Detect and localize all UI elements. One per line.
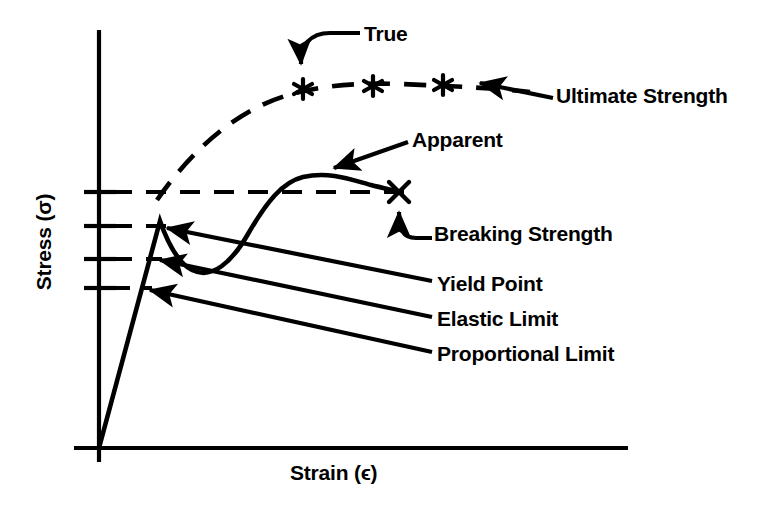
- diagram-canvas: [0, 0, 778, 525]
- elastic-limit-label: Elastic Limit: [437, 307, 558, 331]
- ultimate-strength-label: Ultimate Strength: [556, 84, 728, 108]
- proportional-limit-label: Proportional Limit: [437, 342, 614, 366]
- elastic-limit-leader-arrow: [160, 260, 432, 317]
- stress-strain-figure: True Ultimate Strength Apparent Breaking…: [0, 0, 778, 525]
- apparent-label: Apparent: [412, 128, 503, 152]
- proportional-limit-leader-arrow: [150, 290, 432, 352]
- yield-point-label: Yield Point: [437, 272, 543, 296]
- x-axis-label: Strain (ϵ): [290, 461, 377, 485]
- true-label: True: [364, 22, 408, 46]
- breaking-strength-leader-arrow: [399, 212, 432, 238]
- true-leader-arrow: [301, 33, 360, 64]
- asterisk-marker-2: [364, 76, 382, 96]
- apparent-leader-arrow: [334, 142, 408, 168]
- y-axis-label: Stress (σ): [32, 172, 56, 312]
- breaking-strength-label: Breaking Strength: [434, 222, 613, 246]
